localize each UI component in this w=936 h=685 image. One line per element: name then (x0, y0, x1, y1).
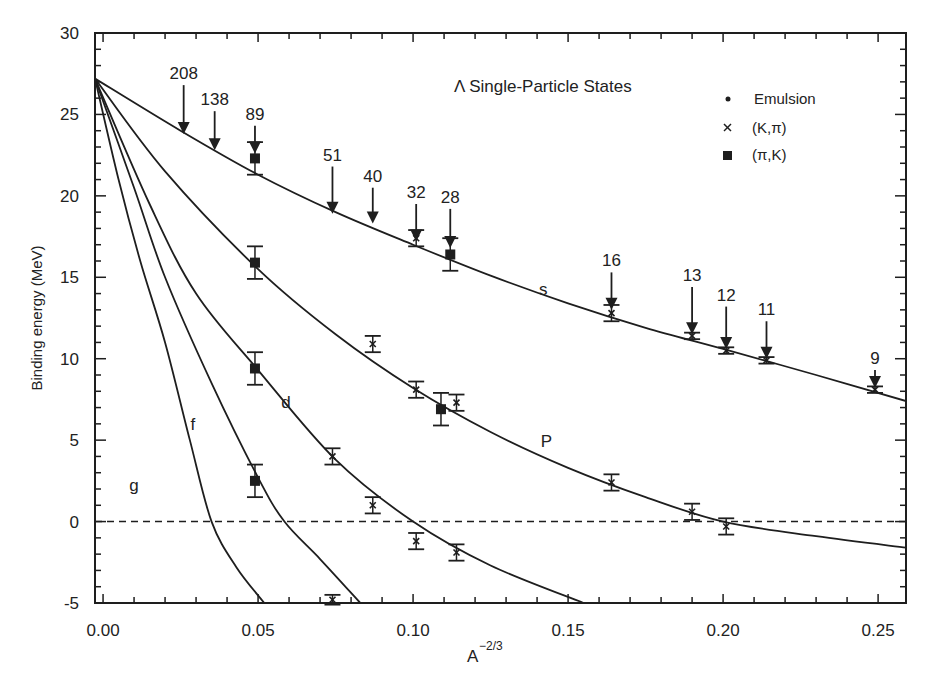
y-tick-label: -5 (64, 594, 79, 613)
curve-label-f: f (191, 415, 196, 434)
square-marker-icon (445, 249, 455, 259)
svg-text:A: A (467, 647, 479, 666)
mass-arrow-208: 208 (169, 64, 197, 134)
legend-marker-cross-icon (724, 124, 731, 131)
mass-number-label: 12 (717, 286, 736, 305)
mass-number-label: 9 (870, 349, 879, 368)
mass-number-label: 11 (758, 300, 776, 319)
x-axis-title: A −2/3 (467, 639, 503, 666)
x-tick-label: 0.20 (707, 621, 740, 640)
x-tick-label: 0.00 (87, 621, 120, 640)
data-point-k-pi (448, 395, 464, 411)
mass-arrow-9: 9 (869, 349, 881, 388)
mass-number-label: 208 (169, 64, 197, 83)
svg-text:−2/3: −2/3 (479, 639, 503, 653)
y-tick-label: 30 (60, 24, 79, 43)
mass-arrow-51: 51 (323, 146, 342, 214)
arrow-down-icon (178, 122, 190, 134)
y-tick-label: 0 (70, 513, 79, 532)
y-tick-label: 5 (70, 431, 79, 450)
y-tick-label: 15 (60, 268, 79, 287)
y-tick-label: 20 (60, 187, 79, 206)
mass-arrow-32: 32 (407, 183, 426, 241)
mass-number-label: 89 (246, 105, 265, 124)
legend-label-pik: (π,K) (752, 146, 787, 163)
mass-number-label: 28 (441, 188, 460, 207)
data-point-pi-k (247, 246, 263, 279)
y-tick-label: 25 (60, 105, 79, 124)
x-tick-label: 0.15 (552, 621, 585, 640)
binding-energy-chart: 2081388951403228161312119 sPdfg 0.000.05… (0, 0, 936, 685)
legend: Emulsion (K,π) (π,K) (723, 90, 816, 163)
mass-number-label: 51 (323, 146, 342, 165)
arrow-down-icon (249, 142, 261, 154)
mass-number-label: 13 (683, 266, 702, 285)
arrow-down-icon (444, 236, 456, 248)
data-point-k-pi (408, 533, 424, 549)
annotation-title: Λ Single-Particle States (454, 77, 632, 96)
x-tick-label: 0.10 (397, 621, 430, 640)
data-point-k-pi (448, 544, 464, 560)
data-point-k-pi (365, 497, 381, 513)
mass-arrow-12: 12 (717, 286, 736, 349)
legend-label-kpi: (K,π) (752, 119, 787, 136)
legend-marker-square-icon (723, 151, 732, 160)
y-axis-title: Binding energy (MeV) (28, 245, 45, 390)
mass-arrow-16: 16 (602, 251, 621, 309)
mass-arrow-89: 89 (246, 105, 265, 154)
y-tick-label: 10 (60, 350, 79, 369)
mass-arrow-13: 13 (683, 266, 702, 334)
x-tick-label: 0.25 (862, 621, 895, 640)
mass-number-label: 16 (602, 251, 621, 270)
data-point-k-pi (365, 336, 381, 352)
data-point-k-pi (408, 382, 424, 398)
mass-arrow-40: 40 (363, 167, 382, 224)
legend-marker-emulsion-icon (726, 97, 731, 102)
data-point-pi-k (247, 352, 263, 385)
axes-layer: 0.000.050.100.150.200.25-5051015202530 (60, 24, 906, 640)
curve-label-s: s (539, 280, 548, 299)
mass-arrow-138: 138 (200, 90, 228, 150)
arrow-down-icon (410, 229, 422, 241)
curve-label-g: g (129, 476, 138, 495)
mass-number-label: 40 (363, 167, 382, 186)
x-tick-label: 0.05 (242, 621, 275, 640)
arrow-down-icon (605, 298, 617, 310)
curve-label-p: P (541, 432, 552, 451)
curve-labels-layer: sPdfg (129, 280, 552, 494)
mass-number-label: 32 (407, 183, 426, 202)
square-marker-icon (250, 153, 260, 163)
curve-label-d: d (281, 393, 290, 412)
square-marker-icon (250, 363, 260, 373)
mass-arrows-layer: 2081388951403228161312119 (169, 64, 881, 388)
data-point-pi-k (433, 393, 449, 426)
mass-number-label: 138 (200, 90, 228, 109)
curve-g (95, 79, 264, 603)
data-points-layer (247, 142, 883, 605)
square-marker-icon (436, 404, 446, 414)
mass-arrow-11: 11 (758, 300, 776, 358)
square-marker-icon (250, 476, 260, 486)
arrow-down-icon (367, 212, 379, 224)
legend-label-emulsion: Emulsion (754, 90, 816, 107)
square-marker-icon (250, 258, 260, 268)
